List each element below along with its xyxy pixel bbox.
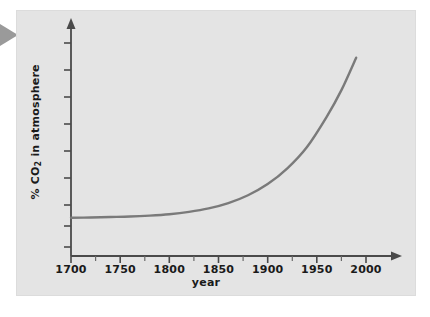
co2-line-chart (16, 10, 416, 296)
y-axis-ticks (64, 43, 71, 247)
chart-panel: % CO2 in atmosphere year 1700 1750 1800 … (16, 10, 416, 296)
co2-data-curve (71, 58, 356, 218)
x-axis-major-ticks (71, 256, 366, 263)
x-tick-label-2000: 2000 (344, 263, 388, 276)
x-tick-label-1700: 1700 (49, 263, 93, 276)
y-axis-label-suffix: in atmosphere (29, 64, 42, 160)
x-tick-label-1750: 1750 (98, 263, 142, 276)
y-axis-label-subscript: 2 (34, 161, 43, 167)
x-tick-label-1800: 1800 (147, 263, 191, 276)
y-axis (67, 18, 76, 256)
y-axis-label: % CO2 in atmosphere (29, 70, 42, 200)
y-axis-label-prefix: % CO (29, 166, 42, 199)
x-tick-label-1900: 1900 (246, 263, 290, 276)
x-axis-label: year (166, 276, 246, 289)
x-tick-label-1950: 1950 (295, 263, 339, 276)
x-tick-label-1850: 1850 (197, 263, 241, 276)
